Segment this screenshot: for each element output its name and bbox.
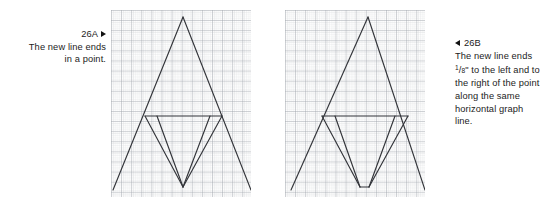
caption-26b-label-row: 26B <box>455 37 557 50</box>
graph-26a-svg <box>111 10 251 197</box>
triangle-left-icon <box>455 40 460 46</box>
caption-26a: 26A The new line ends in a point. <box>6 28 106 66</box>
graph-26b-svg <box>285 10 425 197</box>
caption-26b-line-2: 1/8" to the left and to <box>455 62 557 77</box>
caption-26a-line-2: in a point. <box>6 53 106 66</box>
caption-26a-number: 26A <box>81 29 98 39</box>
caption-26b-line-3: the right of the point <box>455 77 557 90</box>
fraction-suffix: to the left and to <box>469 65 540 75</box>
graph-26b-grid <box>285 10 425 197</box>
caption-26b-line-5: horizontal graph <box>455 103 557 116</box>
caption-26b-line-6: line. <box>455 115 557 128</box>
graph-26a-grid <box>111 10 251 197</box>
graph-panel-26b <box>285 10 425 197</box>
caption-26a-label-row: 26A <box>6 28 106 41</box>
caption-26b-line-1: The new line ends <box>455 50 557 63</box>
graph-panel-26a <box>111 10 251 197</box>
caption-26b-line-4: along the same <box>455 90 557 103</box>
triangle-right-icon <box>101 31 106 37</box>
caption-26b-number: 26B <box>464 38 481 48</box>
caption-26b: 26B The new line ends 1/8" to the left a… <box>455 37 557 128</box>
figure-page: 26A The new line ends in a point. <box>0 0 559 208</box>
caption-26a-line-1: The new line ends <box>6 41 106 54</box>
fraction-numerator: 1 <box>455 64 459 71</box>
